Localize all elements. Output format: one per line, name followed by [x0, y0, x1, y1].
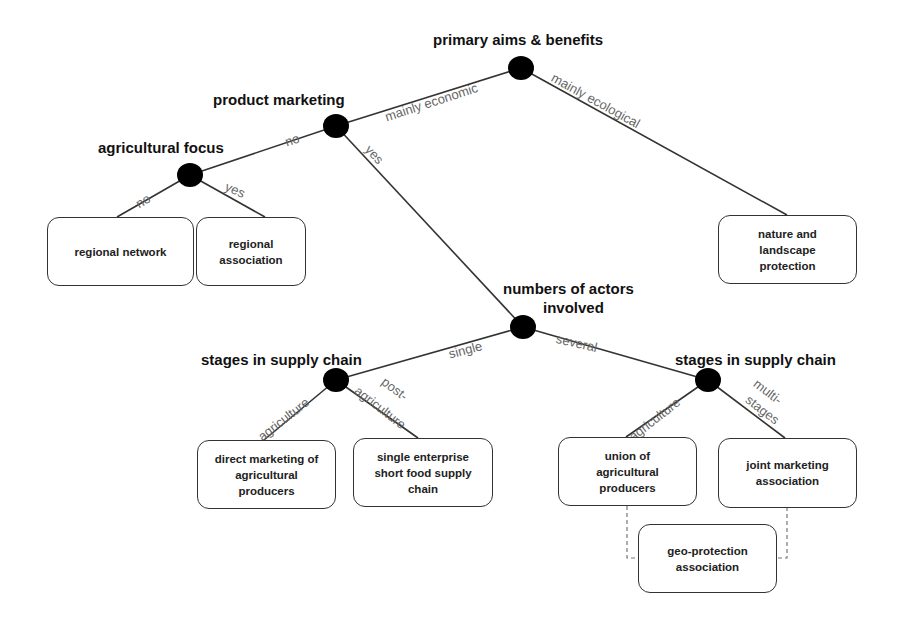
dashed-connector-joint — [776, 507, 787, 558]
node-stages-single-icon — [323, 368, 349, 392]
outcome-single-enterprise-sfsc: single enterpriseshort food supplychain — [353, 438, 493, 507]
node-number-of-actors-icon — [510, 315, 536, 339]
title-agricultural-focus: agricultural focus — [98, 138, 224, 157]
title-number-of-actors-line1: numbers of actors — [503, 279, 634, 298]
outcome-joint-marketing-association: joint marketingassociation — [718, 438, 857, 508]
title-stages-single: stages in supply chain — [201, 350, 362, 369]
outcome-geo-protection-association: geo-protectionassociation — [638, 524, 777, 593]
node-agricultural-focus-icon — [177, 163, 203, 187]
edge-single — [336, 327, 523, 380]
dashed-connector-union — [627, 506, 638, 558]
title-product-marketing: product marketing — [213, 90, 345, 109]
outcome-nature-landscape-protection: nature andlandscapeprotection — [718, 215, 857, 284]
node-stages-several-icon — [695, 368, 721, 392]
outcome-regional-network: regional network — [47, 217, 194, 286]
edge-product-marketing-yes — [336, 126, 523, 327]
decision-tree-diagram: primary aims & benefits product marketin… — [0, 0, 905, 624]
outcome-union-agricultural-producers: union ofagriculturalproducers — [558, 437, 697, 506]
node-primary-aims-icon — [508, 56, 534, 80]
title-stages-several: stages in supply chain — [675, 350, 836, 369]
outcome-direct-marketing: direct marketing ofagriculturalproducers — [197, 440, 336, 509]
node-product-marketing-icon — [323, 114, 349, 138]
title-number-of-actors-line2: involved — [543, 298, 604, 317]
outcome-regional-association: regionalassociation — [196, 217, 306, 286]
title-primary-aims: primary aims & benefits — [433, 30, 603, 49]
